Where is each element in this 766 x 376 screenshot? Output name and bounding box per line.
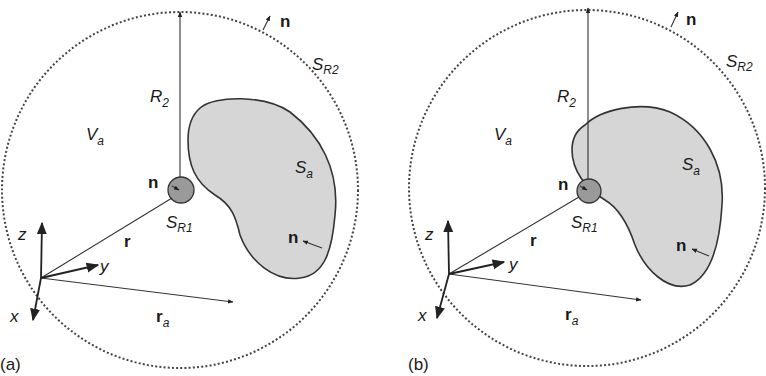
y-axis-arrow (449, 262, 504, 274)
z-axis-arrow (41, 223, 42, 278)
radius-label: R2 (557, 87, 576, 110)
position-vector-ra (449, 274, 641, 300)
volume-label: Va (494, 125, 512, 148)
z-axis-arrow (448, 221, 449, 274)
volume-label: Va (86, 125, 104, 148)
position-label: r (124, 232, 131, 251)
figure-canvas: n SR2 R2 Va Sa n SR1 n r ra z y x (a) (0, 0, 766, 376)
source-position-label: ra (156, 307, 170, 330)
position-label: r (530, 231, 537, 250)
source-position-label: ra (565, 305, 579, 328)
x-axis-label: x (417, 306, 427, 325)
inner-sphere-label: SR1 (166, 213, 193, 235)
inner-sphere-sr1 (168, 177, 194, 203)
radius-label: R2 (150, 87, 169, 110)
inner-normal-label: n (148, 173, 158, 192)
x-axis-label: x (9, 307, 19, 326)
panel-a: n SR2 R2 Va Sa n SR1 n r ra z y x (a) (0, 12, 358, 374)
outer-sphere-label: SR2 (726, 52, 753, 74)
inner-normal-label: n (558, 175, 568, 194)
position-vector-ra (41, 278, 233, 302)
outer-normal-arrow (263, 16, 270, 30)
body-surface-sa (188, 99, 336, 279)
body-normal-label: n (676, 236, 686, 255)
body-normal-label: n (288, 228, 298, 247)
outer-normal-label: n (686, 10, 696, 29)
y-axis-label: y (508, 255, 519, 274)
outer-normal-arrow (671, 12, 678, 27)
panel-b: n SR2 R2 Va Sa n SR1 n r ra z y x (b) (408, 8, 765, 374)
outer-sphere-label: SR2 (312, 55, 339, 77)
panel-b-label: (b) (408, 355, 429, 374)
z-axis-label: z (17, 225, 27, 244)
inner-sphere-sr1 (577, 179, 601, 203)
z-axis-label: z (424, 225, 434, 244)
y-axis-arrow (41, 265, 98, 278)
outer-normal-label: n (280, 12, 290, 31)
y-axis-label: y (99, 257, 110, 276)
panel-a-label: (a) (0, 355, 21, 374)
inner-sphere-label: SR1 (571, 213, 598, 235)
x-axis-arrow (437, 274, 449, 318)
